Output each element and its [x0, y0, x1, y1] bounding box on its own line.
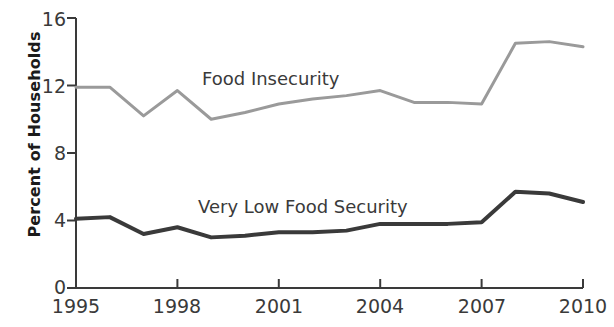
line-food-insecurity [76, 42, 583, 120]
line-very-low-food-security [76, 192, 583, 238]
y-axis-ticks [67, 18, 76, 288]
plot-area [0, 0, 614, 327]
food-security-line-chart: Percent of Households 16 12 8 4 0 1995 1… [0, 0, 614, 327]
series-lines [76, 42, 583, 238]
x-axis-ticks [76, 279, 583, 288]
